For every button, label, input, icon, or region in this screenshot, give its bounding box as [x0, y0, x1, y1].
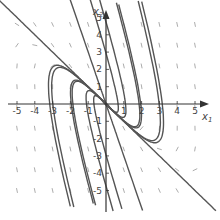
field-segment	[193, 169, 197, 171]
x-tick-label: -1	[84, 106, 93, 116]
field-segment	[16, 43, 19, 47]
field-segment	[70, 147, 71, 152]
y-tick-label: -2	[93, 134, 102, 144]
field-segment	[141, 22, 142, 27]
field-segment	[17, 126, 18, 131]
x-tick-label: -5	[13, 106, 22, 116]
field-segment	[195, 84, 196, 89]
field-segment	[177, 84, 178, 89]
field-segment	[140, 126, 143, 130]
field-segment	[34, 64, 35, 69]
field-segment	[52, 147, 53, 152]
field-segment	[123, 167, 125, 172]
x-tick-label: 1	[121, 106, 127, 116]
y-tick-label: 4	[96, 30, 102, 40]
field-segment	[123, 147, 125, 152]
field-segment	[34, 188, 35, 193]
field-segment	[88, 167, 89, 172]
field-segment	[69, 64, 72, 68]
x-tick-label: -3	[48, 106, 57, 116]
x-tick-label: 4	[174, 106, 180, 116]
field-segment	[141, 167, 143, 172]
field-segment	[34, 167, 35, 172]
x-tick-label: 5	[192, 106, 198, 116]
field-segment	[70, 167, 71, 172]
field-segment	[69, 43, 71, 47]
field-segment	[88, 188, 89, 193]
y-tick-label: -1	[93, 116, 102, 126]
field-segment	[34, 126, 35, 131]
x-tick-label: 2	[139, 106, 145, 116]
field-segment	[70, 126, 71, 131]
field-segment	[87, 22, 88, 27]
field-segment	[87, 43, 89, 48]
y-tick-label: -4	[93, 168, 102, 178]
field-segment	[157, 148, 162, 150]
y-tick-label: 1	[96, 82, 102, 92]
field-segment	[176, 188, 179, 192]
field-segment	[51, 43, 54, 47]
field-segment	[32, 45, 37, 46]
field-segment	[33, 22, 36, 26]
x-tick-label: -2	[66, 106, 75, 116]
field-segment	[123, 126, 125, 130]
field-segment	[34, 147, 35, 152]
phase-portrait-svg: -5-4-3-2-11234554321-1-2-3-4-5 x1 x2	[0, 0, 220, 220]
field-segment	[17, 147, 18, 152]
field-segment	[177, 22, 178, 27]
field-segment	[175, 168, 179, 171]
field-segment	[141, 43, 142, 48]
field-segment	[141, 84, 142, 89]
field-segment	[177, 64, 178, 69]
field-segment	[15, 23, 19, 26]
field-segment	[158, 188, 160, 192]
field-segment	[88, 126, 89, 131]
y-tick-label: 3	[96, 47, 102, 57]
field-segment	[141, 64, 142, 69]
x-axis-label: x1	[201, 111, 212, 124]
y-tick-label: 2	[96, 64, 102, 74]
field-segment	[123, 188, 124, 193]
field-segment	[195, 64, 196, 69]
field-segment	[17, 167, 18, 172]
x-tick-label: -4	[30, 106, 39, 116]
field-segment	[195, 147, 196, 152]
field-segment	[159, 64, 160, 69]
field-segment	[159, 43, 160, 48]
field-segment	[159, 22, 160, 27]
field-segment	[123, 64, 124, 69]
y-tick-label: -3	[93, 151, 102, 161]
field-segment	[52, 22, 54, 26]
phase-portrait-diagram: -5-4-3-2-11234554321-1-2-3-4-5 x1 x2	[0, 0, 220, 220]
field-segment	[123, 43, 124, 48]
field-segment	[70, 22, 72, 27]
y-tick-label: -5	[93, 186, 102, 196]
trajectory-curve	[106, 104, 143, 211]
field-segment	[17, 188, 18, 193]
field-segment	[140, 147, 142, 151]
field-segment	[195, 43, 196, 48]
field-segment	[158, 168, 160, 172]
field-segment	[52, 167, 53, 172]
field-segment	[195, 22, 196, 27]
field-segment	[177, 43, 178, 48]
field-segment	[52, 188, 53, 193]
x-tick-label: 3	[157, 106, 163, 116]
field-segment	[141, 188, 143, 193]
field-segment	[87, 64, 89, 69]
field-segment	[176, 147, 178, 151]
x-axis-arrow-icon	[200, 101, 209, 108]
field-segment	[88, 147, 89, 152]
